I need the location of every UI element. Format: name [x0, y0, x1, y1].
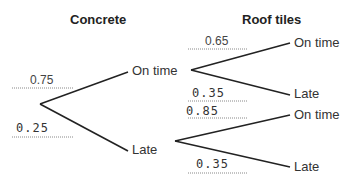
outcome-tiles-on-time-on-time: On time: [294, 35, 340, 50]
branch-concrete-late: [40, 104, 128, 151]
branch-tiles-late-on-time: [175, 115, 290, 141]
outcome-tiles-late-on-time: On time: [294, 107, 340, 122]
probability-tiles-late-late: 0.35: [196, 157, 229, 171]
probability-concrete-late: 0.25: [16, 121, 49, 135]
stage-title-concrete: Concrete: [70, 12, 126, 27]
outcome-tiles-late-late: Late: [294, 159, 319, 174]
probability-concrete-on-time: 0.75: [30, 73, 53, 87]
probability-tiles-on-time-on-time: 0.65: [205, 34, 228, 48]
outcome-tiles-on-time-late: Late: [294, 86, 319, 101]
branch-tiles-late-late: [175, 141, 290, 167]
probability-tiles-on-time-late: 0.35: [192, 86, 225, 100]
probability-tiles-late-on-time: 0.85: [186, 104, 219, 118]
outcome-concrete-on-time: On time: [132, 63, 178, 78]
outcome-concrete-late: Late: [132, 142, 157, 157]
stage-title-roof-tiles: Roof tiles: [242, 12, 301, 27]
